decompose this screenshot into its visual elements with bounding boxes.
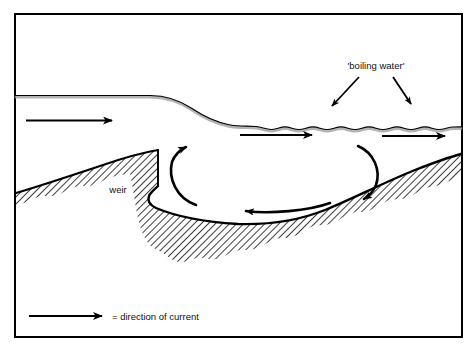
eddy-arrow-up-left [171,147,196,205]
diagram-canvas: 'boiling water' weir = direction of curr… [0,0,476,350]
legend: = direction of current [29,311,199,322]
boiling-water-arrow-right [393,77,411,104]
legend-label: = direction of current [112,311,199,322]
eddy-arrow-return-bottom [246,203,330,212]
boiling-water-label: 'boiling water' [348,60,405,71]
riverbed-hatched [16,150,461,262]
weir-label: weir [108,184,126,195]
boiling-water-arrow-left [332,77,359,106]
water-surface-line [16,96,461,130]
figure-root: 'boiling water' weir = direction of curr… [0,0,476,350]
